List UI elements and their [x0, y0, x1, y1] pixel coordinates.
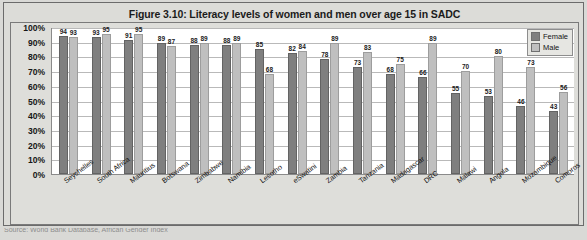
x-axis: SeychellesSouth AfricaMauritiusBotswanaZ…: [51, 176, 574, 224]
y-axis-tick: 0%: [33, 170, 45, 180]
bar-value-label: 83: [359, 44, 377, 51]
bars-layer: 9493939591958987888988898568828478897383…: [52, 28, 574, 174]
bar: [134, 34, 143, 174]
bar-value-label: 89: [424, 35, 442, 42]
bar-value-label: 73: [522, 59, 540, 66]
bar-value-label: 89: [326, 35, 344, 42]
bar-group: 6689: [418, 28, 437, 174]
bar: [288, 53, 297, 174]
bar-value-label: 95: [97, 26, 115, 33]
bar-group: 6875: [386, 28, 405, 174]
bar: [190, 45, 199, 174]
bar-group: 9493: [59, 28, 78, 174]
chart-legend: FemaleMale: [527, 29, 573, 56]
bar: [451, 93, 460, 174]
bar-group: 8987: [157, 28, 176, 174]
legend-item: Female: [531, 32, 568, 41]
bar: [526, 67, 535, 174]
y-axis-tick: 40%: [28, 111, 45, 121]
y-axis-tick: 10%: [28, 155, 45, 165]
bar: [396, 64, 405, 174]
chart-title: Figure 3.10: Literacy levels of women an…: [129, 8, 460, 20]
bar: [320, 59, 329, 174]
bar-value-label: 95: [130, 26, 148, 33]
bar: [428, 43, 437, 174]
y-axis-tick: 90%: [28, 38, 45, 48]
bar: [102, 34, 111, 174]
y-axis-tick: 50%: [28, 97, 45, 107]
bar: [69, 37, 78, 174]
legend-item: Male: [531, 43, 568, 52]
bar-group: 8889: [222, 28, 241, 174]
y-axis-tick: 20%: [28, 141, 45, 151]
source-note: Source: World Bank Database, African Gen…: [4, 228, 168, 233]
bar: [484, 96, 493, 174]
plot-area: 9493939591958987888988898568828478897383…: [51, 28, 574, 175]
legend-swatch-icon: [531, 32, 540, 41]
bar: [232, 43, 241, 174]
bar-value-label: 87: [162, 38, 180, 45]
y-axis: 0%10%20%30%40%50%60%70%80%90%100%: [11, 23, 49, 175]
bar: [353, 67, 362, 174]
source-strip: Source: World Bank Database, African Gen…: [0, 228, 587, 240]
bar-value-label: 68: [260, 66, 278, 73]
figure-container: Figure 3.10: Literacy levels of women an…: [0, 0, 587, 240]
bar-value-label: 75: [391, 56, 409, 63]
chart-title-band: Figure 3.10: Literacy levels of women an…: [8, 6, 581, 22]
bar: [494, 56, 503, 174]
bar: [298, 51, 307, 174]
bar-value-label: 89: [195, 35, 213, 42]
figure-frame: Figure 3.10: Literacy levels of women an…: [3, 2, 584, 226]
bar-value-label: 84: [293, 43, 311, 50]
y-axis-tick: 30%: [28, 126, 45, 136]
y-axis-tick: 60%: [28, 82, 45, 92]
bar: [59, 36, 68, 174]
bar-group: 5570: [451, 28, 470, 174]
bar: [222, 45, 231, 174]
bar: [461, 71, 470, 174]
bar: [92, 37, 101, 174]
y-axis-tick: 100%: [23, 23, 45, 33]
legend-label: Female: [543, 33, 568, 41]
bar-group: 9395: [92, 28, 111, 174]
bar-value-label: 89: [228, 35, 246, 42]
plot-frame: 0%10%20%30%40%50%60%70%80%90%100% 949393…: [10, 22, 579, 225]
bar-value-label: 70: [457, 63, 475, 70]
bar-value-label: 93: [64, 29, 82, 36]
bar-value-label: 85: [250, 41, 268, 48]
bar-group: 8568: [255, 28, 274, 174]
bar-group: 7383: [353, 28, 372, 174]
bar-value-label: 56: [555, 84, 573, 91]
legend-label: Male: [543, 44, 559, 52]
bar-value-label: 80: [489, 48, 507, 55]
bar: [516, 106, 525, 174]
y-axis-tick: 70%: [28, 67, 45, 77]
bar-group: 8284: [288, 28, 307, 174]
bar: [157, 43, 166, 174]
legend-swatch-icon: [531, 43, 540, 52]
y-axis-tick: 80%: [28, 52, 45, 62]
bar-group: 5380: [484, 28, 503, 174]
bar: [167, 46, 176, 174]
bar-group: 8889: [190, 28, 209, 174]
bar: [559, 92, 568, 174]
bar: [386, 74, 395, 174]
bar: [330, 43, 339, 174]
bar: [265, 74, 274, 174]
bar-group: 9195: [124, 28, 143, 174]
bar: [363, 52, 372, 174]
bar-group: 7889: [320, 28, 339, 174]
bar: [200, 43, 209, 174]
